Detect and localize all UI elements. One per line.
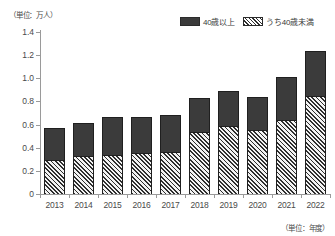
x-axis-tick — [330, 194, 331, 198]
bar-2017 — [160, 115, 181, 194]
bar-2018 — [189, 98, 210, 194]
legend-swatch-hatch-icon — [243, 17, 263, 26]
bar-2022 — [305, 51, 326, 194]
x-axis-label-2016: 2016 — [132, 200, 150, 210]
x-axis-label-2021: 2021 — [277, 200, 295, 210]
y-axis-tick-label: 0.6 — [22, 120, 34, 129]
bar-2015 — [102, 117, 123, 194]
y-axis-tick-label: 0.4 — [22, 143, 34, 152]
y-axis-tick-label: 1.2 — [22, 51, 34, 60]
plot-area: 00.20.40.60.81.01.21.4 — [40, 32, 330, 194]
bar-2020 — [247, 97, 268, 194]
x-axis-tick — [214, 194, 215, 198]
y-axis-tick — [36, 55, 40, 56]
y-axis-tick-label: 0.8 — [22, 97, 34, 106]
y-axis-tick-label: 0 — [29, 190, 34, 199]
bar-segment-under40 — [131, 153, 152, 194]
x-axis-label-2013: 2013 — [45, 200, 63, 210]
x-axis-label-2017: 2017 — [161, 200, 179, 210]
bar-segment-under40 — [305, 96, 326, 194]
chart-legend: 40歳以上 うち40歳未満 — [180, 16, 313, 27]
bar-chart: （単位：万人） 40歳以上 うち40歳未満 00.20.40.60.81.01.… — [0, 0, 335, 236]
legend-label-under40: うち40歳未満 — [266, 16, 313, 27]
y-axis-tick — [36, 125, 40, 126]
bar-2016 — [131, 117, 152, 194]
x-axis-tick — [243, 194, 244, 198]
x-axis-label-2022: 2022 — [306, 200, 324, 210]
bar-segment-under40 — [160, 152, 181, 194]
y-axis-tick — [36, 171, 40, 172]
bar-2014 — [73, 123, 94, 194]
x-axis-label-2020: 2020 — [248, 200, 266, 210]
x-axis-label-2019: 2019 — [219, 200, 237, 210]
bar-2019 — [218, 91, 239, 194]
legend-swatch-solid-icon — [180, 17, 200, 26]
bar-segment-under40 — [189, 132, 210, 194]
x-axis-label-2015: 2015 — [103, 200, 121, 210]
bar-segment-under40 — [247, 130, 268, 194]
x-axis-unit-label: （単位：年度） — [281, 222, 329, 233]
bar-segment-under40 — [276, 120, 297, 194]
x-axis-tick — [40, 194, 41, 198]
y-axis-tick — [36, 148, 40, 149]
bar-segment-under40 — [218, 126, 239, 194]
x-axis-label-2018: 2018 — [190, 200, 208, 210]
y-axis-tick — [36, 32, 40, 33]
x-axis-tick — [98, 194, 99, 198]
y-axis-tick-label: 0.2 — [22, 167, 34, 176]
legend-item-over40[interactable]: 40歳以上 — [180, 16, 234, 27]
legend-item-under40[interactable]: うち40歳未満 — [243, 16, 313, 27]
legend-label-over40: 40歳以上 — [203, 16, 234, 27]
bar-segment-under40 — [44, 160, 65, 194]
bar-2021 — [276, 77, 297, 194]
x-axis-tick — [127, 194, 128, 198]
bar-segment-under40 — [102, 155, 123, 194]
x-axis-tick — [301, 194, 302, 198]
x-axis-tick — [272, 194, 273, 198]
x-axis-line — [38, 194, 330, 195]
y-axis-tick-label: 1.0 — [22, 74, 34, 83]
x-axis-tick — [156, 194, 157, 198]
y-axis-unit-label: （単位：万人） — [9, 9, 57, 20]
y-axis-tick-label: 1.4 — [22, 28, 34, 37]
x-axis-tick — [69, 194, 70, 198]
x-axis-label-2014: 2014 — [74, 200, 92, 210]
x-axis-tick — [185, 194, 186, 198]
bar-2013 — [44, 128, 65, 194]
y-axis-tick — [36, 78, 40, 79]
y-axis-tick — [36, 101, 40, 102]
bar-segment-under40 — [73, 156, 94, 194]
